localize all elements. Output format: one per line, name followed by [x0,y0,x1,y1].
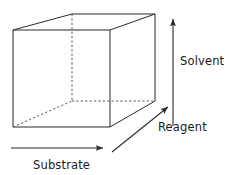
substrate-axis-label: Substrate [33,158,90,172]
cube-top-face [13,14,155,30]
solvent-axis-label: Solvent [180,54,225,68]
cube-edge-top-left-receding [13,14,72,30]
axis-labels: Solvent Reagent Substrate [33,54,225,172]
cube-edge-bottom-left-receding-hidden [13,101,72,127]
cube-edge-top-right-receding [110,14,155,30]
cube-wireframe [13,14,155,127]
cube-right-face [110,14,155,127]
reagent-axis-label: Reagent [158,120,207,134]
figure-root: Solvent Reagent Substrate [0,0,226,175]
axis-arrows [11,19,173,152]
cube-front-face [13,30,110,127]
cube-hidden-edges [13,14,155,127]
cube-axes-diagram: Solvent Reagent Substrate [0,0,226,175]
